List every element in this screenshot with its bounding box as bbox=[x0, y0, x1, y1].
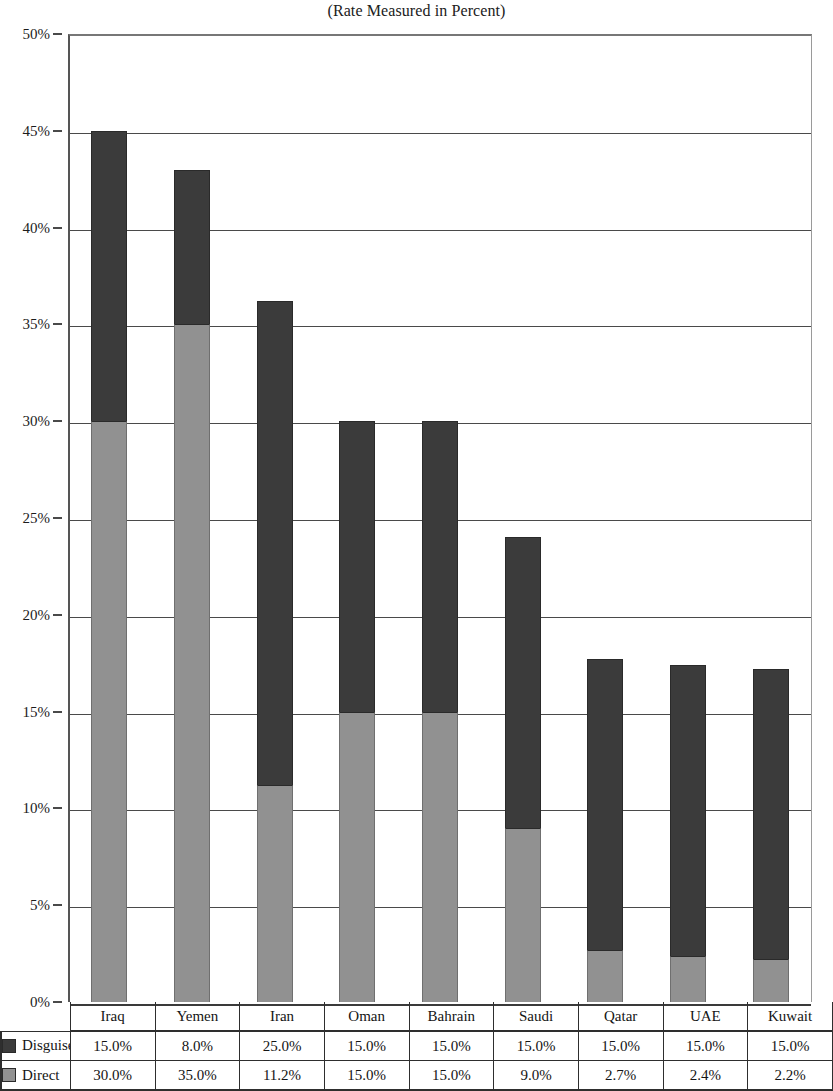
table-header-cell: Iran bbox=[240, 1002, 325, 1031]
data-table: IraqYemenIranOmanBahrainSaudiQatarUAEKuw… bbox=[0, 1002, 833, 1091]
bar-segment-disguised[interactable] bbox=[422, 421, 458, 711]
table-row-categories: IraqYemenIranOmanBahrainSaudiQatarUAEKuw… bbox=[1, 1002, 833, 1031]
bars-layer bbox=[68, 34, 812, 1002]
table-cell-disguised: 25.0% bbox=[240, 1031, 325, 1061]
table-header-cell: Iraq bbox=[70, 1002, 155, 1031]
bar-segment-disguised[interactable] bbox=[339, 421, 375, 711]
chart-title: (Rate Measured in Percent) bbox=[0, 2, 833, 20]
table-cell-direct: 2.4% bbox=[663, 1061, 748, 1091]
y-axis-tick-label: 30% bbox=[23, 413, 51, 430]
table-cell-disguised: 15.0% bbox=[409, 1031, 494, 1061]
bar-group[interactable] bbox=[91, 131, 127, 1002]
bar-group[interactable] bbox=[587, 659, 623, 1002]
table-cell-disguised: 15.0% bbox=[663, 1031, 748, 1061]
table-cell-disguised: 15.0% bbox=[324, 1031, 409, 1061]
y-axis-tick-label: 10% bbox=[23, 800, 51, 817]
y-axis-tick-label: 5% bbox=[30, 897, 50, 914]
dark-gray-square-icon bbox=[2, 1039, 16, 1053]
table-header-cell: Oman bbox=[324, 1002, 409, 1031]
table-cell-direct: 15.0% bbox=[324, 1061, 409, 1091]
y-axis-tick-mark bbox=[53, 323, 62, 325]
y-axis-tick-mark bbox=[53, 517, 62, 519]
bar-segment-disguised[interactable] bbox=[257, 301, 293, 785]
table-header-cell: Bahrain bbox=[409, 1002, 494, 1031]
table-corner-cell bbox=[1, 1002, 70, 1031]
bar-segment-disguised[interactable] bbox=[753, 669, 789, 959]
y-axis-tick-mark bbox=[53, 904, 62, 906]
table-cell-direct: 35.0% bbox=[155, 1061, 240, 1091]
y-axis-tick-label: 25% bbox=[23, 510, 51, 527]
legend-cell-direct[interactable]: Direct bbox=[1, 1061, 70, 1091]
table-cell-direct: 11.2% bbox=[240, 1061, 325, 1091]
y-axis-tick-mark bbox=[53, 33, 62, 35]
bar-group[interactable] bbox=[422, 421, 458, 1002]
table-cell-disguised: 15.0% bbox=[494, 1031, 579, 1061]
bar-segment-direct[interactable] bbox=[174, 324, 210, 1002]
bar-segment-direct[interactable] bbox=[587, 950, 623, 1002]
y-axis-tick-mark bbox=[53, 614, 62, 616]
y-axis-tick-mark bbox=[53, 711, 62, 713]
table-cell-direct: 9.0% bbox=[494, 1061, 579, 1091]
bar-segment-direct[interactable] bbox=[505, 828, 541, 1002]
table-header-cell: Kuwait bbox=[748, 1002, 833, 1031]
y-axis-tick-label: 20% bbox=[23, 606, 51, 623]
bar-segment-direct[interactable] bbox=[670, 956, 706, 1002]
table-cell-disguised: 15.0% bbox=[748, 1031, 833, 1061]
y-axis-tick-label: 35% bbox=[23, 316, 51, 333]
bar-segment-disguised[interactable] bbox=[505, 537, 541, 827]
table-row-disguised: Disguised 15.0%8.0%25.0%15.0%15.0%15.0%1… bbox=[1, 1031, 833, 1061]
legend-label-direct: Direct bbox=[22, 1067, 59, 1084]
y-axis-tick-label: 50% bbox=[23, 26, 51, 43]
bar-group[interactable] bbox=[670, 665, 706, 1002]
table-header-cell: Yemen bbox=[155, 1002, 240, 1031]
bar-segment-direct[interactable] bbox=[422, 712, 458, 1002]
table-header-cell: UAE bbox=[663, 1002, 748, 1031]
bar-group[interactable] bbox=[174, 170, 210, 1002]
table-cell-disguised: 8.0% bbox=[155, 1031, 240, 1061]
table-cell-direct: 15.0% bbox=[409, 1061, 494, 1091]
y-axis-tick-label: 40% bbox=[23, 219, 51, 236]
table-cell-disguised: 15.0% bbox=[70, 1031, 155, 1061]
bar-segment-direct[interactable] bbox=[91, 421, 127, 1002]
bar-segment-direct[interactable] bbox=[753, 959, 789, 1002]
light-gray-square-icon bbox=[2, 1068, 16, 1082]
y-axis-tick-label: 15% bbox=[23, 703, 51, 720]
y-axis-tick-mark bbox=[53, 130, 62, 132]
bar-segment-direct[interactable] bbox=[257, 785, 293, 1002]
bar-segment-disguised[interactable] bbox=[587, 659, 623, 949]
y-axis: 0%5%10%15%20%25%30%35%40%45%50% bbox=[0, 34, 62, 1002]
y-axis-tick-label: 45% bbox=[23, 122, 51, 139]
y-axis-tick-mark bbox=[53, 227, 62, 229]
table-cell-direct: 2.7% bbox=[578, 1061, 663, 1091]
bar-group[interactable] bbox=[753, 669, 789, 1002]
table-cell-disguised: 15.0% bbox=[578, 1031, 663, 1061]
bar-segment-disguised[interactable] bbox=[670, 665, 706, 955]
y-axis-tick-mark bbox=[53, 420, 62, 422]
table-row-direct: Direct 30.0%35.0%11.2%15.0%15.0%9.0%2.7%… bbox=[1, 1061, 833, 1091]
table-cell-direct: 2.2% bbox=[748, 1061, 833, 1091]
bar-segment-disguised[interactable] bbox=[91, 131, 127, 421]
table-header-cell: Qatar bbox=[578, 1002, 663, 1031]
y-axis-tick-mark bbox=[53, 807, 62, 809]
legend-label-disguised: Disguised bbox=[22, 1037, 70, 1054]
legend-cell-disguised[interactable]: Disguised bbox=[1, 1031, 70, 1061]
bar-segment-disguised[interactable] bbox=[174, 170, 210, 325]
bar-group[interactable] bbox=[339, 421, 375, 1002]
bar-group[interactable] bbox=[505, 537, 541, 1002]
bar-group[interactable] bbox=[257, 301, 293, 1002]
table-header-cell: Saudi bbox=[494, 1002, 579, 1031]
bar-segment-direct[interactable] bbox=[339, 712, 375, 1002]
table-cell-direct: 30.0% bbox=[70, 1061, 155, 1091]
